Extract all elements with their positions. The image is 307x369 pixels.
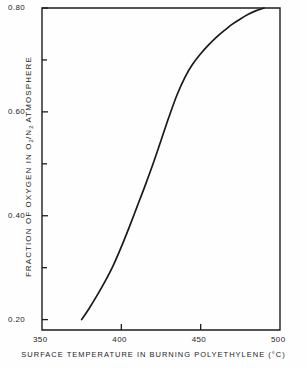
chart-plot-area — [0, 0, 307, 369]
y-tick-label: 0.20 — [8, 315, 25, 324]
y-axis-minor-ticks — [42, 60, 47, 268]
x-tick-label: 500 — [271, 335, 286, 344]
y-tick-label: 0.40 — [8, 211, 25, 220]
x-tick-label: 350 — [33, 335, 48, 344]
y-axis-title-suffix: ATMOSPHERE — [24, 56, 33, 125]
y-axis-title-sub-n2: 2 — [28, 125, 34, 128]
axis-frame — [42, 8, 280, 330]
figure-container: 0.200.400.600.80 350400450500 FRACTION O… — [0, 0, 307, 369]
y-tick-label: 0.60 — [8, 107, 25, 116]
x-tick-label: 450 — [192, 335, 207, 344]
y-axis-title: FRACTION OF OXYGEN IN O2/N2 ATMOSPHERE — [24, 42, 33, 292]
x-tick-label: 400 — [112, 335, 127, 344]
y-axis-title-prefix: FRACTION OF OXYGEN IN O — [24, 142, 33, 277]
y-tick-label: 0.80 — [8, 3, 25, 12]
x-axis-major-ticks — [121, 324, 200, 330]
y-axis-title-sub-o2: 2 — [28, 139, 34, 142]
data-series-curve — [82, 8, 264, 320]
y-axis-title-mid: /N — [24, 129, 33, 139]
x-axis-title: SURFACE TEMPERATURE IN BURNING POLYETHYL… — [0, 350, 307, 359]
